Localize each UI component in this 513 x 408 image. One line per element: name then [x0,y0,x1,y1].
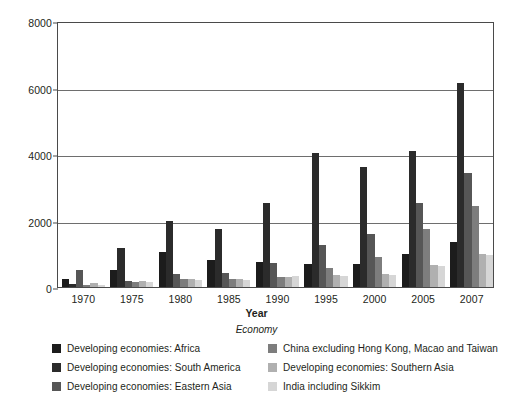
y-tick-label: 6000 [28,84,52,96]
bar [146,282,153,287]
bar-group [304,23,347,287]
bar [236,279,243,287]
bar [62,279,69,287]
bar [166,221,173,287]
bar [125,281,132,287]
bar [382,274,389,287]
legend-item[interactable]: India including Sikkim [268,378,498,394]
bar [472,206,479,287]
bar [132,282,139,287]
bar [243,280,250,287]
bar [117,248,124,287]
bar [464,173,471,287]
x-tick-label: 1970 [71,293,95,305]
bar-group [207,23,250,287]
bar [304,264,311,287]
bar [195,280,202,287]
x-tick-label: 1980 [168,293,192,305]
bar [263,203,270,287]
legend-swatch-icon [52,363,61,372]
bar [83,285,90,287]
legend-label: Developing economies: Africa [67,343,200,354]
legend-item[interactable]: Developing economies: Southern Asia [268,359,498,375]
bar [402,254,409,287]
bar-group [110,23,153,287]
bar [486,255,493,287]
bar-group [159,23,202,287]
bar [353,264,360,287]
y-tick-mark [53,289,58,290]
bar [222,273,229,287]
bar [340,276,347,287]
x-tick-label: 1975 [120,293,144,305]
legend-swatch-icon [268,382,277,391]
legend-label: China excluding Hong Kong, Macao and Tai… [283,343,498,354]
y-tick-label: 4000 [28,150,52,162]
legend-label: India including Sikkim [283,381,380,392]
bar [256,262,263,287]
x-tick-label: 1995 [314,293,338,305]
bar [367,234,374,287]
legend-label: Developing economies: Southern Asia [283,362,454,373]
bar-chart-figure: 02000400060008000 1970197519801985199019… [0,0,513,408]
legend-item[interactable]: Developing economies: Africa [52,340,241,356]
bar [326,268,333,287]
legend-column-right: China excluding Hong Kong, Macao and Tai… [268,340,498,397]
bar [270,263,277,287]
bar-group [402,23,445,287]
x-tick-label: 2005 [411,293,435,305]
bar [98,285,105,287]
bar [450,242,457,287]
x-axis-title: Year [0,307,513,319]
x-tick-label: 1990 [266,293,290,305]
bar [90,283,97,287]
bar [438,266,445,287]
bar [416,203,423,287]
bar [76,270,83,287]
bar-groups [58,23,493,287]
y-tick-label: 2000 [28,217,52,229]
bar [159,252,166,287]
legend-column-left: Developing economies: AfricaDeveloping e… [52,340,241,397]
y-tick-label: 0 [46,283,52,295]
bar [229,279,236,287]
bar [409,151,416,287]
y-tick-label: 8000 [28,17,52,29]
bar [312,153,319,287]
bar-group [450,23,493,287]
legend-item[interactable]: Developing economies: South America [52,359,241,375]
plot-wrapper: 02000400060008000 1970197519801985199019… [0,0,513,300]
legend-swatch-icon [268,363,277,372]
plot-area: 02000400060008000 1970197519801985199019… [57,22,494,288]
bar [180,279,187,287]
bar [457,83,464,287]
x-tick-label: 1985 [217,293,241,305]
legend-swatch-icon [52,344,61,353]
bar [333,275,340,287]
x-tick-label: 2007 [460,293,484,305]
legend-item[interactable]: Developing economies: Eastern Asia [52,378,241,394]
bar [110,270,117,287]
bar [207,260,214,287]
chart-caption: Economy [0,324,513,335]
bar [423,229,430,287]
bar [389,275,396,287]
bar-group [353,23,396,287]
legend: Developing economies: AfricaDeveloping e… [0,340,513,402]
bar [215,229,222,287]
x-tick-label: 2000 [363,293,387,305]
bar [375,257,382,287]
bar [430,265,437,287]
bar [285,277,292,287]
bar [292,276,299,287]
bar [173,274,180,287]
bar [69,284,76,287]
bar [360,167,367,287]
legend-swatch-icon [268,344,277,353]
bar-group [62,23,105,287]
bar [188,279,195,287]
bar [139,281,146,287]
bar [479,254,486,287]
legend-item[interactable]: China excluding Hong Kong, Macao and Tai… [268,340,498,356]
bar [277,277,284,287]
